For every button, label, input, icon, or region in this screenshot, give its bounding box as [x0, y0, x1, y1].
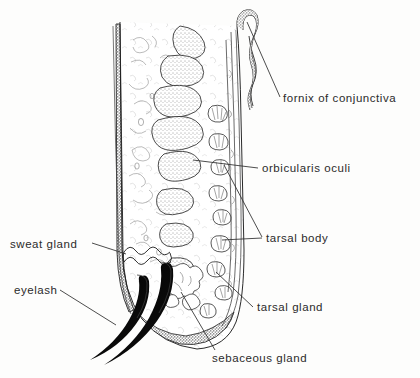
label-tarsal-body: tarsal body — [266, 233, 328, 245]
eyelid-section-drawing — [0, 0, 420, 378]
label-tarsal-gland: tarsal gland — [257, 302, 323, 314]
label-orbicularis-oculi: orbicularis oculi — [262, 163, 351, 175]
label-sebaceous-gland: sebaceous gland — [212, 353, 307, 365]
label-sweat-gland: sweat gland — [10, 239, 77, 251]
label-eyelash: eyelash — [14, 285, 58, 297]
label-fornix-of-conjunctiva: fornix of conjunctiva — [283, 93, 396, 105]
leader-eyelash — [60, 290, 116, 325]
eyelid-histology-figure: fornix of conjunctiva orbicularis oculi … — [0, 0, 420, 378]
